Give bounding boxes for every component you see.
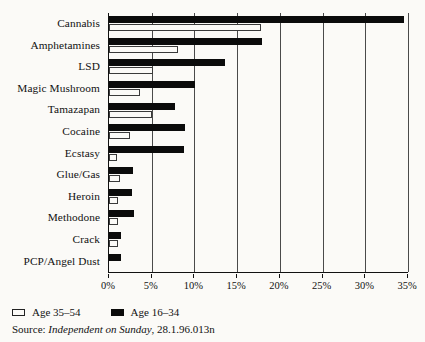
bar-age-35-54: [109, 240, 118, 247]
bar-age-35-54: [109, 154, 117, 161]
bar-row: [109, 99, 408, 121]
bar-row: [109, 142, 408, 164]
bar-age-35-54: [109, 67, 153, 74]
category-label: Amphetamines: [0, 35, 104, 57]
x-axis-tick-label: 35%: [397, 279, 416, 293]
bar-age-16-34: [109, 16, 404, 23]
bar-row: [109, 164, 408, 186]
source-suffix: , 28.1.96.013n: [152, 323, 215, 335]
x-axis-tick-label: 5%: [144, 279, 158, 293]
source-publication: Independent on Sunday: [48, 323, 151, 335]
chart-legend: Age 35–54 Age 16–34: [12, 306, 179, 318]
bar-age-16-34: [109, 81, 195, 88]
x-axis-tick: [407, 274, 408, 278]
bar-age-16-34: [109, 103, 175, 110]
legend-swatch-filled-icon: [111, 309, 124, 316]
bar-age-16-34: [109, 59, 225, 66]
category-axis-labels: Cannabis Amphetamines LSD Magic Mushroom…: [0, 13, 104, 272]
category-label: LSD: [0, 56, 104, 78]
source-note: Source: Independent on Sunday, 28.1.96.0…: [12, 323, 215, 335]
plot-area: [108, 13, 408, 273]
bar-age-16-34: [109, 254, 121, 261]
category-label: Magic Mushroom: [0, 78, 104, 100]
category-label: Ecstasy: [0, 142, 104, 164]
bar-row: [109, 35, 408, 57]
bar-rows: [109, 13, 408, 272]
bar-age-16-34: [109, 189, 132, 196]
x-axis-tick-labels: 0%5%10%15%20%25%30%35%: [0, 279, 425, 293]
x-axis-tick-label: 25%: [312, 279, 331, 293]
source-prefix: Source:: [12, 323, 46, 335]
bar-age-16-34: [109, 232, 121, 239]
x-axis-tick: [279, 274, 280, 278]
x-axis-tick: [236, 274, 237, 278]
bar-age-16-34: [109, 146, 184, 153]
bar-age-35-54: [109, 132, 130, 139]
category-label: Glue/Gas: [0, 164, 104, 186]
bar-age-35-54: [109, 46, 178, 53]
bar-age-35-54: [109, 197, 118, 204]
bar-age-16-34: [109, 167, 133, 174]
x-axis-ticks: [108, 274, 407, 278]
category-label: Methodone: [0, 207, 104, 229]
category-label: Heroin: [0, 186, 104, 208]
bar-row: [109, 56, 408, 78]
bar-row: [109, 250, 408, 272]
bar-age-16-34: [109, 38, 262, 45]
x-axis-tick: [151, 274, 152, 278]
category-label: Crack: [0, 229, 104, 251]
legend-swatch-outline-icon: [12, 309, 25, 316]
bar-age-16-34: [109, 124, 185, 131]
bar-age-35-54: [109, 218, 118, 225]
bar-age-35-54: [109, 89, 140, 96]
bar-age-35-54: [109, 24, 261, 31]
category-label: Tamazapan: [0, 99, 104, 121]
bar-row: [109, 78, 408, 100]
bar-age-35-54: [109, 175, 120, 182]
x-axis-tick-label: 20%: [269, 279, 288, 293]
x-axis-tick-label: 15%: [227, 279, 246, 293]
bar-row: [109, 207, 408, 229]
bar-row: [109, 186, 408, 208]
legend-label: Age 35–54: [32, 306, 81, 318]
bar-row: [109, 121, 408, 143]
bar-row: [109, 229, 408, 251]
legend-item-age-35-54: Age 35–54: [12, 306, 81, 318]
category-label: Cocaine: [0, 121, 104, 143]
legend-label: Age 16–34: [131, 306, 180, 318]
x-axis-tick-label: 10%: [184, 279, 203, 293]
x-axis-tick-label: 0%: [101, 279, 115, 293]
gridline: [408, 13, 409, 272]
x-axis-tick: [322, 274, 323, 278]
bar-age-35-54: [109, 111, 152, 118]
x-axis-tick: [108, 274, 109, 278]
bar-row: [109, 13, 408, 35]
category-label: Cannabis: [0, 13, 104, 35]
category-label: PCP/Angel Dust: [0, 250, 104, 272]
legend-item-age-16-34: Age 16–34: [111, 306, 180, 318]
x-axis-tick-label: 30%: [355, 279, 374, 293]
x-axis-tick: [193, 274, 194, 278]
bar-age-16-34: [109, 210, 134, 217]
x-axis-tick: [364, 274, 365, 278]
bar-chart: Cannabis Amphetamines LSD Magic Mushroom…: [0, 0, 425, 342]
